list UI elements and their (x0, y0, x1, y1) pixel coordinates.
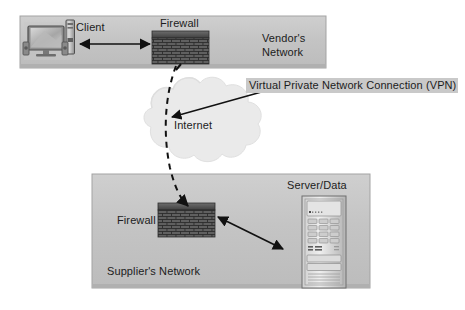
vendor-network-label-line1: Vendor's (262, 31, 305, 45)
diagram-canvas (0, 0, 465, 310)
server-rack-icon (302, 196, 346, 288)
supplier-network-label: Supplier's Network (107, 265, 200, 278)
vpn-connection-label: Virtual Private Network Connection (VPN) (246, 78, 458, 93)
desktop-computer-icon (23, 20, 75, 60)
vendor-firewall-icon (152, 31, 209, 64)
network-diagram: Client Firewall Vendor's Network Virtual… (0, 0, 465, 310)
vendor-firewall-label: Firewall (160, 17, 199, 30)
client-label: Client (76, 21, 105, 34)
server-data-label: Server/Data (287, 179, 347, 192)
internet-label: Internet (174, 119, 212, 132)
vendor-network-label-line2: Network (262, 45, 303, 59)
supplier-firewall-label: Firewall (117, 214, 156, 227)
supplier-firewall-icon (158, 203, 215, 237)
